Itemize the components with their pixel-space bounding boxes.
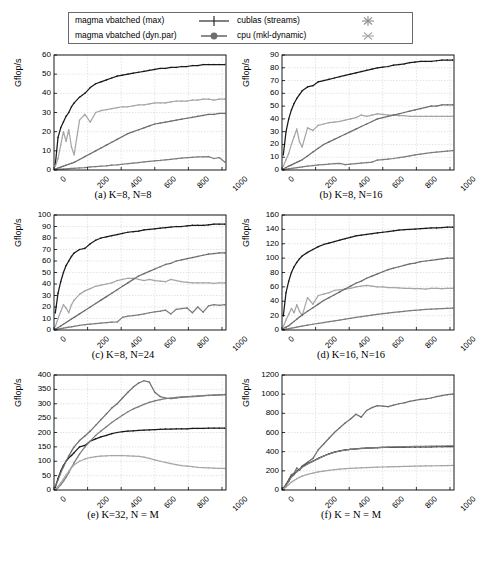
y-axis-tick-label: 20 [270,140,279,148]
x-axis-tick-label: 1000 [459,175,477,193]
y-axis-tick-label: 0 [47,326,51,334]
y-axis-tick-label: 50 [42,269,51,277]
y-axis-tick-label: 150 [38,443,51,451]
legend-label-magma-max: magma vbatched (max) [69,16,197,25]
y-axis-tick-label: 40 [270,297,279,305]
legend-row: magma vbatched (dyn.par) cpu (mkl-dynami… [69,28,412,43]
y-axis-tick-label: 60 [42,257,51,265]
y-axis-tick-label: 50 [42,472,51,480]
y-axis-tick-label: 600 [266,429,279,437]
y-axis-tick-label: 90 [42,223,51,231]
y-axis-tick-label: 50 [42,70,51,78]
y-axis-tick-label: 1200 [261,371,279,379]
y-axis-tick-label: 0 [275,166,279,174]
y-axis-tick-label: 200 [38,429,51,437]
x-axis-tick-label: 1000 [459,495,477,513]
y-axis-tick-label: 10 [42,147,51,155]
xmark-marker-icon [351,30,385,42]
y-axis-tick-label: 800 [266,409,279,417]
legend-label-cublas-streams: cublas (streams) [231,16,351,25]
plus-marker-icon [197,15,231,27]
y-axis-tick-label: 400 [266,448,279,456]
y-axis-tick-label: 0 [275,486,279,494]
subplot-e: Gflop/s (e) K=32, N = M 0501001502002503… [14,367,232,527]
y-axis-tick-label: 120 [266,240,279,248]
subplot-caption: (b) K=8, N=16 [242,189,460,200]
subplot-a: Gflop/s (a) K=8, N=8 0102030405060020040… [14,47,232,207]
y-axis-tick-label: 0 [275,326,279,334]
y-axis-tick-label: 100 [38,211,51,219]
subplot-d: Gflop/s (d) K=16, N=16 02040608010012014… [242,207,460,367]
circle-marker-icon [197,30,231,42]
subplot-caption: (d) K=16, N=16 [242,349,460,360]
y-axis-tick-label: 50 [270,102,279,110]
y-axis-tick-label: 40 [42,89,51,97]
y-axis-tick-label: 100 [38,457,51,465]
y-axis-tick-label: 70 [42,246,51,254]
y-axis-tick-label: 0 [47,486,51,494]
y-axis-tick-label: 10 [270,153,279,161]
subplot-b: Gflop/s (b) K=8, N=16 010203040506070809… [242,47,460,207]
y-axis-tick-label: 10 [42,315,51,323]
y-axis-tick-label: 20 [42,303,51,311]
subplot-c: Gflop/s (c) K=8, N=24 010203040506070809… [14,207,232,367]
y-axis-tick-label: 80 [270,64,279,72]
y-axis-tick-label: 70 [270,77,279,85]
y-axis-tick-label: 100 [266,254,279,262]
subplot-f: Gflop/s (f) K = N = M 020040060080010001… [242,367,460,527]
y-axis-tick-label: 80 [270,269,279,277]
y-axis-tick-label: 90 [270,51,279,59]
star-marker-icon [351,15,385,27]
legend-label-cpu-mkl: cpu (mkl-dynamic) [231,31,351,40]
legend: magma vbatched (max) cublas (streams) ma… [68,12,413,44]
y-axis-tick-label: 60 [270,89,279,97]
y-axis-tick-label: 20 [42,128,51,136]
y-axis-tick-label: 250 [38,414,51,422]
y-axis-tick-label: 20 [270,312,279,320]
y-axis-tick-label: 400 [38,371,51,379]
y-axis-tick-label: 30 [270,128,279,136]
y-axis-tick-label: 160 [266,211,279,219]
legend-box: magma vbatched (max) cublas (streams) ma… [68,12,413,44]
y-axis-tick-label: 30 [42,109,51,117]
subplot-caption: (a) K=8, N=8 [14,189,232,200]
y-axis-tick-label: 1000 [261,390,279,398]
subplot-caption: (e) K=32, N = M [14,509,232,520]
subplot-caption: (f) K = N = M [242,509,460,520]
y-axis-tick-label: 200 [266,467,279,475]
y-axis-tick-label: 140 [266,225,279,233]
y-axis-tick-label: 0 [47,166,51,174]
x-axis-tick-label: 1000 [459,335,477,353]
subplot-caption: (c) K=8, N=24 [14,349,232,360]
y-axis-tick-label: 300 [38,400,51,408]
y-axis-tick-label: 30 [42,292,51,300]
y-axis-tick-label: 40 [42,280,51,288]
y-axis-tick-label: 60 [270,283,279,291]
legend-label-magma-dynpar: magma vbatched (dyn.par) [69,31,197,40]
y-axis-tick-label: 80 [42,234,51,242]
figure-root: magma vbatched (max) cublas (streams) ma… [0,0,480,569]
y-axis-tick-label: 40 [270,115,279,123]
y-axis-tick-label: 60 [42,51,51,59]
y-axis-tick-label: 350 [38,385,51,393]
legend-row: magma vbatched (max) cublas (streams) [69,13,412,28]
